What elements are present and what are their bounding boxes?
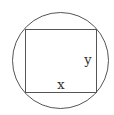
circle <box>13 13 109 109</box>
label-y: y <box>83 52 92 67</box>
label-x: x <box>57 77 65 92</box>
inscribed-rectangle-diagram: x y <box>0 0 114 115</box>
